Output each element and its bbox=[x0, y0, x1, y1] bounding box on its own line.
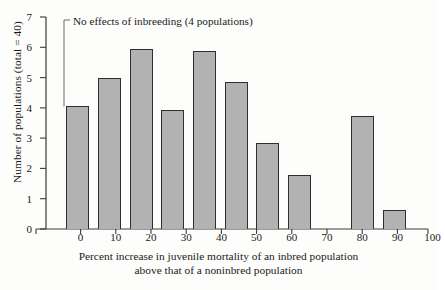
y-tick-3: 3 bbox=[16, 133, 32, 144]
bar-70 bbox=[288, 175, 311, 229]
x-axis-title-line-2: above that of a noninbred population bbox=[0, 264, 437, 278]
bar-10 bbox=[98, 78, 121, 229]
y-tick-0: 0 bbox=[16, 224, 32, 235]
x-tick-0: 0 bbox=[66, 232, 96, 243]
bar-90 bbox=[351, 116, 374, 229]
x-axis-tick-labels: 0 10 20 30 40 50 60 70 80 90 100 bbox=[46, 232, 426, 248]
bar-30 bbox=[161, 110, 184, 229]
x-tick-90: 90 bbox=[382, 232, 412, 243]
bar-100 bbox=[383, 210, 406, 229]
x-tick-80: 80 bbox=[347, 232, 377, 243]
y-tick-7: 7 bbox=[16, 12, 32, 23]
y-tick-1: 1 bbox=[16, 193, 32, 204]
x-axis-title-line-1: Percent increase in juvenile mortality o… bbox=[79, 250, 359, 262]
x-tick-50: 50 bbox=[242, 232, 272, 243]
bar-50 bbox=[225, 82, 248, 229]
x-tick-40: 40 bbox=[206, 232, 236, 243]
x-tick-30: 30 bbox=[171, 232, 201, 243]
x-axis-title: Percent increase in juvenile mortality o… bbox=[0, 250, 437, 277]
x-tick-70: 70 bbox=[312, 232, 342, 243]
y-tick-4: 4 bbox=[16, 102, 32, 113]
bar-40 bbox=[193, 51, 216, 229]
bar-20 bbox=[130, 49, 153, 229]
y-tick-6: 6 bbox=[16, 42, 32, 53]
y-tick-5: 5 bbox=[16, 72, 32, 83]
bar-series bbox=[46, 17, 426, 229]
annotation-no-effects-label: No effects of inbreeding (4 populations) bbox=[73, 15, 253, 27]
x-tick-10: 10 bbox=[101, 232, 131, 243]
x-tick-60: 60 bbox=[277, 232, 307, 243]
bar-60 bbox=[256, 143, 279, 229]
x-tick-100: 100 bbox=[418, 232, 445, 243]
bar-0 bbox=[66, 106, 89, 229]
y-tick-2: 2 bbox=[16, 163, 32, 174]
x-tick-20: 20 bbox=[136, 232, 166, 243]
y-axis-tick-labels: 0 1 2 3 4 5 6 7 bbox=[14, 17, 32, 229]
